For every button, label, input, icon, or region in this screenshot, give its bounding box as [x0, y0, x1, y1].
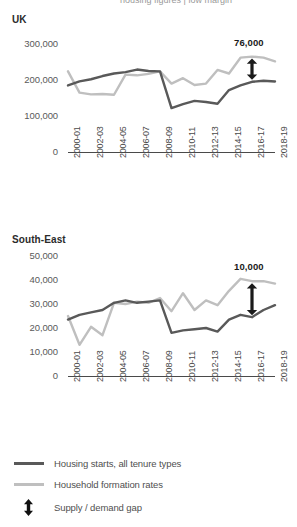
legend-item-supply-demand-gap: Supply / demand gap [14, 499, 142, 515]
double-arrow-icon [14, 499, 44, 515]
chart-panel-south-east: South-East 010,00020,00030,00040,00050,0… [0, 228, 297, 443]
gap-annotation-value: 76,000 [234, 37, 264, 48]
series-line [68, 70, 275, 109]
series-line [68, 57, 275, 95]
legend-label-housing-starts: Housing starts, all tenure types [54, 458, 181, 469]
double-arrow-glyph [22, 499, 35, 516]
legend-label-supply-demand-gap: Supply / demand gap [54, 502, 142, 513]
series-line [68, 300, 275, 332]
series-canvas [0, 0, 297, 225]
line-swatch-light-icon [14, 476, 44, 492]
legend-item-household-formation: Household formation rates [14, 476, 163, 492]
gap-annotation-value: 10,000 [234, 261, 264, 272]
chart-legend: Housing starts, all tenure types Househo… [0, 455, 297, 525]
supply-demand-gap-arrow [247, 283, 257, 315]
legend-label-household-formation: Household formation rates [54, 479, 163, 490]
chart-panel-uk: UK 0100,000200,000300,0002000-012002-032… [0, 0, 297, 225]
supply-demand-gap-arrow [247, 59, 257, 80]
line-swatch-dark-icon [14, 455, 44, 471]
legend-item-housing-starts: Housing starts, all tenure types [14, 455, 181, 471]
